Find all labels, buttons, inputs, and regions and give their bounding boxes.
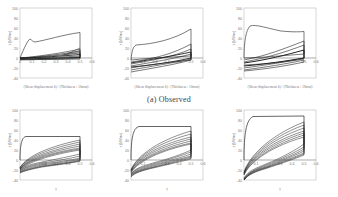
y-axis-label: τ (kN/m²) (8, 31, 12, 45)
ytick: 60 (14, 129, 18, 133)
xtick: 0.3 (54, 60, 59, 64)
ytick: -20 (237, 67, 242, 71)
ytick: -40 (124, 179, 129, 183)
chart-predicted-2: 100 80 60 40 20 0 -20 -40 0.1 0.3 0.4 0.… (113, 104, 223, 196)
chart-observed-3: 100 80 60 40 20 0 -20 -40 0.5 0.6 τ (kN/… (226, 2, 336, 94)
plot-frame (131, 8, 203, 78)
xtick: 0.6 (90, 162, 95, 166)
ytick: 80 (125, 119, 129, 123)
plot-predicted-1: 100 80 60 40 20 0 -20 -40 0.2 0.3 0.4 0.… (2, 104, 112, 196)
plot-frame (244, 110, 316, 180)
ytick: 60 (14, 27, 18, 31)
ytick: 40 (238, 139, 242, 143)
ytick: 20 (14, 149, 18, 153)
ytick: 80 (125, 17, 129, 21)
xtick: 0.6 (314, 162, 319, 166)
xtick: 0.6 (201, 162, 206, 166)
ytick: -40 (124, 77, 129, 81)
ytick: 60 (238, 129, 242, 133)
ytick: -40 (237, 77, 242, 81)
hysteresis-curves (131, 29, 191, 72)
plot-predicted-2: 100 80 60 40 20 0 -20 -40 0.1 0.3 0.4 0.… (113, 104, 223, 196)
y-axis-label: τ (kN/m²) (232, 133, 236, 147)
ytick: 100 (123, 109, 129, 113)
plot-frame (20, 8, 92, 78)
xtick: 0.5 (302, 162, 307, 166)
ytick: -20 (237, 169, 242, 173)
ytick: -20 (13, 67, 18, 71)
ytick: 60 (125, 27, 129, 31)
ytick: 100 (12, 7, 18, 11)
figure-caption: (a) Observed (0, 95, 338, 104)
ytick: 100 (236, 7, 242, 11)
hysteresis-curves (244, 25, 304, 71)
xtick: 0 (19, 60, 21, 64)
xtick: 0.4 (177, 162, 182, 166)
ytick: 0 (16, 159, 18, 163)
xtick: 0.6 (314, 60, 319, 64)
ytick: 100 (12, 109, 18, 113)
hysteresis-curves (131, 127, 191, 178)
ytick: -40 (13, 179, 18, 183)
xtick: 0.4 (66, 60, 71, 64)
ytick: 0 (127, 57, 129, 61)
ytick: -20 (124, 67, 129, 71)
xtick: 0.5 (78, 60, 83, 64)
xtick: 0.2 (42, 60, 47, 64)
ytick: 40 (125, 139, 129, 143)
ytick: -40 (13, 77, 18, 81)
ytick: 20 (238, 149, 242, 153)
chart-predicted-3: 100 80 60 40 20 0 -20 -40 0.1 0.3 0.4 0.… (226, 104, 336, 196)
y-axis-label: τ (kN/m²) (232, 31, 236, 45)
x-axis-label: γ (279, 187, 281, 191)
ytick: 40 (125, 37, 129, 41)
chart-observed-1: 100 80 60 40 20 0 -20 -40 0 0.1 0.2 0.3 … (2, 2, 112, 94)
ytick: 100 (236, 109, 242, 113)
xtick: 0.6 (201, 60, 206, 64)
xtick: 0.1 (254, 162, 259, 166)
hysteresis-curves (20, 33, 80, 61)
x-axis-label: γ (166, 187, 168, 191)
hysteresis-curves (244, 116, 304, 180)
xtick: 0.4 (290, 162, 295, 166)
chart-observed-2: 100 80 60 40 20 0 -20 -40 0.1 0.2 0.3 0.… (113, 2, 223, 94)
ytick: 80 (14, 17, 18, 21)
ytick: 20 (14, 47, 18, 51)
ytick: 20 (125, 149, 129, 153)
ytick: -20 (13, 169, 18, 173)
ytick: -40 (237, 179, 242, 183)
plot-observed-2: 100 80 60 40 20 0 -20 -40 0.1 0.2 0.3 0.… (113, 2, 223, 94)
y-axis-label: τ (kN/m²) (8, 133, 12, 147)
plot-frame (244, 8, 316, 78)
plot-observed-3: 100 80 60 40 20 0 -20 -40 0.5 0.6 τ (kN/… (226, 2, 336, 94)
ytick: 0 (16, 57, 18, 61)
x-axis-label: (Shear displacement δ) / (Thickness : 10… (135, 85, 201, 89)
ytick: 80 (238, 119, 242, 123)
ytick: 40 (14, 139, 18, 143)
ytick: 80 (14, 119, 18, 123)
plot-predicted-3: 100 80 60 40 20 0 -20 -40 0.1 0.3 0.4 0.… (226, 104, 336, 196)
ytick: 60 (238, 27, 242, 31)
x-axis-label: (Shear displacement δ) / (Thickness : 19… (248, 85, 314, 89)
chart-predicted-1: 100 80 60 40 20 0 -20 -40 0.2 0.3 0.4 0.… (2, 104, 112, 196)
ytick: 20 (238, 47, 242, 51)
xtick: 0.5 (78, 162, 83, 166)
ytick: 100 (123, 7, 129, 11)
x-axis-label: (Shear displacement δ) / (Thickness : 10… (24, 85, 90, 89)
x-axis-label: γ (55, 187, 57, 191)
ytick: 80 (238, 17, 242, 21)
hysteresis-curves (20, 137, 80, 174)
xtick: 0.1 (30, 60, 35, 64)
ytick: -20 (124, 169, 129, 173)
y-axis-label: τ (kN/m²) (119, 31, 123, 45)
ytick: 0 (240, 159, 242, 163)
ytick: 40 (238, 37, 242, 41)
xtick: 0.5 (189, 162, 194, 166)
ytick: 20 (125, 47, 129, 51)
xtick: 0.6 (90, 60, 95, 64)
ytick: 0 (240, 57, 242, 61)
ytick: 40 (14, 37, 18, 41)
ytick: 0 (127, 159, 129, 163)
y-axis-label: τ (kN/m²) (119, 133, 123, 147)
ytick: 60 (125, 129, 129, 133)
